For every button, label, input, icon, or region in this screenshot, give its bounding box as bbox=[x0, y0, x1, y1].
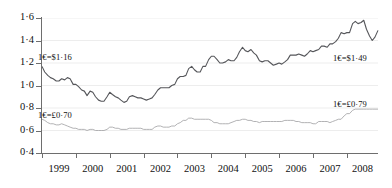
y-tick bbox=[36, 41, 41, 42]
x-tick bbox=[245, 153, 246, 158]
x-tick-label: 2001 bbox=[116, 163, 137, 174]
annotation-gbp-end: 1€=£0·79 bbox=[333, 99, 367, 109]
annotation-usd-start: 1€=$1·16 bbox=[38, 52, 72, 62]
y-tick bbox=[36, 86, 41, 87]
annotation-usd-end: 1€=$1·49 bbox=[333, 53, 367, 63]
y-tick-label: 0·8 bbox=[0, 101, 34, 112]
x-tick-label: 2000 bbox=[82, 163, 103, 174]
y-tick-label: 1·0 bbox=[0, 79, 34, 90]
exchange-rate-chart: 0·40·60·81·01·21·41·6 199920002001200220… bbox=[0, 0, 392, 188]
y-tick bbox=[36, 18, 41, 19]
y-tick-label: 0·4 bbox=[0, 146, 34, 157]
y-tick-label: 1·2 bbox=[0, 56, 34, 67]
x-tick bbox=[76, 153, 77, 158]
plot-area bbox=[42, 18, 378, 153]
y-tick bbox=[36, 153, 41, 154]
x-tick-label: 2008 bbox=[352, 163, 373, 174]
x-tick-label: 2006 bbox=[286, 163, 307, 174]
y-tick bbox=[36, 63, 41, 64]
x-tick-label: 2005 bbox=[252, 163, 273, 174]
y-tick bbox=[36, 131, 41, 132]
x-tick bbox=[279, 153, 280, 158]
x-axis bbox=[41, 153, 378, 154]
x-tick-label: 2007 bbox=[319, 163, 340, 174]
line-eur-gbp bbox=[42, 109, 378, 130]
y-tick bbox=[36, 108, 41, 109]
x-tick-label: 2004 bbox=[218, 163, 239, 174]
x-tick bbox=[110, 153, 111, 158]
x-tick-label: 1999 bbox=[48, 163, 69, 174]
y-axis bbox=[41, 17, 42, 154]
x-tick bbox=[347, 153, 348, 158]
x-tick bbox=[211, 153, 212, 158]
x-tick bbox=[144, 153, 145, 158]
annotation-gbp-start: 1€=£0·70 bbox=[38, 110, 72, 120]
y-tick-label: 0·6 bbox=[0, 124, 34, 135]
x-tick-label: 2002 bbox=[150, 163, 171, 174]
y-tick-label: 1·6 bbox=[0, 11, 34, 22]
y-tick-label: 1·4 bbox=[0, 34, 34, 45]
x-tick bbox=[177, 153, 178, 158]
line-eur-usd bbox=[42, 20, 378, 102]
x-tick bbox=[313, 153, 314, 158]
x-tick bbox=[42, 153, 43, 158]
series-lines bbox=[42, 18, 378, 153]
x-tick-label: 2003 bbox=[184, 163, 205, 174]
